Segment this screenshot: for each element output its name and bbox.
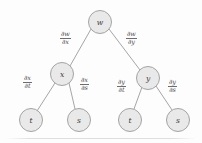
edge-label-dx-dt-numerator: ∂x (23, 75, 32, 82)
edge-x-to-t (37, 83, 55, 111)
edge-label-dw-dx-numerator: ∂w (60, 31, 71, 38)
edge-y-to-t (134, 87, 142, 109)
edge-label-dx-dt-denominator: ∂t (23, 83, 32, 90)
edge-label-dw-dy-numerator: ∂w (126, 31, 137, 38)
edge-w-to-x (70, 29, 91, 66)
edge-label-dw-dx-denominator: ∂x (60, 39, 71, 46)
edge-label-dy-dt-denominator: ∂t (117, 87, 126, 94)
bottom-divider (6, 138, 196, 139)
node-x[interactable]: x (51, 63, 74, 86)
node-s-right[interactable]: s (167, 109, 190, 132)
edge-label-dy-ds-denominator: ∂s (168, 87, 177, 94)
edge-label-dw-dx: ∂w ∂x (60, 31, 71, 46)
node-group: w x y t s t (20, 11, 190, 132)
node-y[interactable]: y (137, 67, 160, 90)
edge-label-dw-dy-denominator: ∂y (126, 39, 137, 46)
edge-x-to-s (69, 83, 75, 109)
tree-graph: w x y t s t (0, 0, 202, 143)
node-y-label: y (145, 74, 151, 83)
edge-label-dy-dt: ∂y ∂t (117, 79, 126, 94)
node-w[interactable]: w (89, 11, 112, 34)
node-w-label: w (97, 18, 104, 27)
node-s-right-label: s (176, 116, 180, 125)
chain-rule-diagram: w x y t s t (0, 0, 202, 143)
node-t-right[interactable]: t (119, 109, 142, 132)
edge-label-dy-ds: ∂y ∂s (168, 79, 177, 94)
edge-label-dx-dt: ∂x ∂t (23, 75, 32, 90)
node-t-left[interactable]: t (20, 109, 43, 132)
edge-label-dy-dt-numerator: ∂y (117, 79, 126, 86)
edge-label-dx-ds: ∂x ∂s (80, 77, 89, 92)
edge-label-dw-dy: ∂w ∂y (126, 31, 137, 46)
node-s-left[interactable]: s (68, 109, 91, 132)
node-s-left-label: s (77, 116, 81, 125)
edge-label-dx-ds-numerator: ∂x (80, 77, 89, 84)
edge-label-dx-ds-denominator: ∂s (80, 85, 89, 92)
edge-label-dy-ds-numerator: ∂y (168, 79, 177, 86)
